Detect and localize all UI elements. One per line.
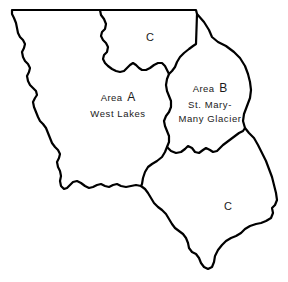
region-label-area-b-sublabel-2: Many Glacier (178, 112, 241, 127)
region-label-area-a-line1: AreaA (90, 88, 145, 107)
region-label-area-a: AreaA West Lakes (90, 88, 145, 121)
area-a-letter: A (122, 90, 135, 104)
region-label-c-south-text: C (224, 198, 232, 215)
region-label-area-b-line1: AreaB (178, 79, 241, 98)
region-label-area-b: AreaB St. Mary- Many Glacier (178, 79, 241, 127)
region-label-c-south: C (224, 198, 232, 215)
area-b-letter: B (214, 81, 227, 95)
park-boundary-outline (12, 10, 277, 269)
map-svg (0, 0, 288, 282)
area-map-figure: C AreaA West Lakes AreaB St. Mary- Many … (0, 0, 288, 282)
region-label-area-a-sublabel: West Lakes (90, 107, 145, 122)
area-b-word: Area (193, 83, 215, 94)
area-a-word: Area (101, 92, 123, 103)
region-label-area-b-sublabel-1: St. Mary- (178, 98, 241, 113)
region-label-c-north-text: C (146, 29, 154, 46)
region-label-c-north: C (146, 29, 154, 46)
